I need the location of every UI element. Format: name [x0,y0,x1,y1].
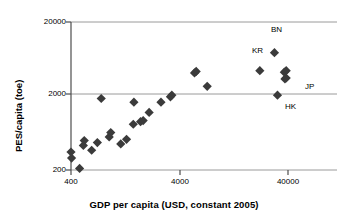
x-tick-label-4000: 4000 [160,178,200,186]
y-axis [66,22,71,170]
y-tick-label-20000: 20000 [26,18,66,26]
data-point [87,146,96,155]
data-point [145,108,154,117]
scatter-chart: 20000 2000 200 400 4000 40000 BN KR JP H… [0,0,348,213]
data-point [93,138,102,147]
data-markers [66,48,290,173]
data-point [129,120,138,129]
y-axis-title: PES/capita (toe) [13,80,24,152]
point-label-kr: KR [252,47,263,55]
point-kr [255,66,264,75]
data-point [156,98,165,107]
point-label-hk: HK [285,103,296,111]
data-point [129,98,138,107]
x-tick-label-400: 400 [51,178,91,186]
point-hk [273,91,282,100]
data-point [203,82,212,91]
x-tick-label-40000: 40000 [268,178,308,186]
x-axis-title: GDP per capita (USD, constant 2005) [0,199,348,210]
gridlines [71,22,337,170]
point-label-bn: BN [271,26,282,34]
y-tick-label-200: 200 [26,166,66,174]
point-label-jp: JP [305,83,314,91]
data-point [97,94,106,103]
y-tick-label-2000: 2000 [26,90,66,98]
data-point [67,153,76,162]
data-point [75,164,84,173]
x-axis [71,170,288,175]
point-bn [270,48,279,57]
